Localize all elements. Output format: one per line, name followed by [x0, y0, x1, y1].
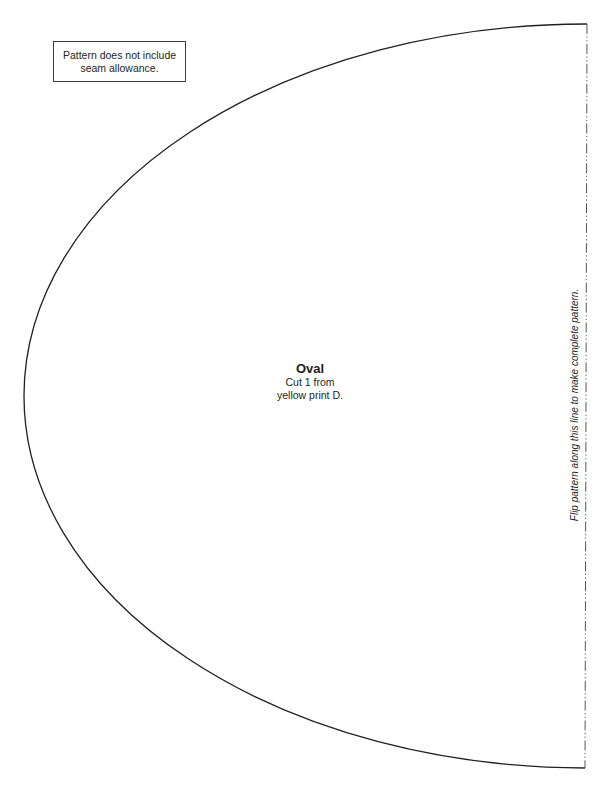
cut-instruction-line-2: yellow print D. — [230, 389, 390, 402]
cut-instruction-line-1: Cut 1 from — [230, 376, 390, 389]
pattern-piece-outline — [0, 0, 614, 805]
note-line-1: Pattern does not include — [63, 49, 176, 62]
fold-instruction: Flip pattern along this line to make com… — [569, 289, 581, 521]
seam-allowance-note: Pattern does not include seam allowance. — [53, 41, 186, 82]
piece-label: Oval Cut 1 from yellow print D. — [230, 361, 390, 401]
note-line-2: seam allowance. — [80, 62, 158, 75]
piece-name: Oval — [230, 361, 390, 376]
fold-line — [585, 24, 587, 768]
